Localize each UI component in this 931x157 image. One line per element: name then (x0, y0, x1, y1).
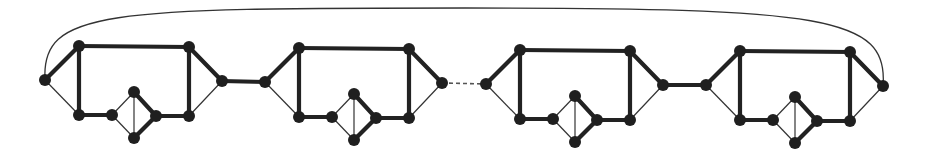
thin-edge (486, 84, 520, 119)
graph-node-gadget-1-small-left (106, 109, 118, 121)
thick-edge (740, 51, 850, 52)
graph-node-gadget-1-bottom-left (73, 109, 85, 121)
thick-edge (189, 47, 222, 81)
graph-node-gadget-2-right (436, 77, 448, 89)
graph-node-gadget-2-diamond-top (348, 88, 360, 100)
thin-edge (409, 83, 442, 118)
thick-edge (409, 49, 442, 83)
graph-node-gadget-4-diamond-top (789, 91, 801, 103)
graph-node-gadget-1-top-left (73, 40, 85, 52)
graph-node-gadget-4-bottom-left (734, 114, 746, 126)
graph-node-gadget-3-diamond-right (591, 114, 603, 126)
graph-node-gadget-1-left (39, 74, 51, 86)
thin-edge (45, 80, 79, 115)
dashed-connector-edge (442, 83, 486, 84)
graph-node-gadget-4-small-left (767, 114, 779, 126)
thick-edge (706, 51, 740, 85)
graph-node-gadget-1-top-right (183, 41, 195, 53)
graph-node-gadget-1-diamond-top (128, 86, 140, 98)
graph-node-gadget-3-top-left (514, 44, 526, 56)
graph-node-gadget-4-right (877, 80, 889, 92)
graph-node-gadget-3-bottom-right (624, 114, 636, 126)
thick-edge (79, 46, 189, 47)
thin-edge (706, 85, 740, 120)
thin-edge (850, 86, 883, 121)
graph-node-gadget-4-bottom-right (844, 115, 856, 127)
gadget-chain-diagram (0, 0, 931, 157)
graph-node-gadget-2-bottom-right (403, 112, 415, 124)
graph-node-gadget-4-top-right (844, 46, 856, 58)
thin-edge (265, 82, 299, 117)
thick-edge (850, 52, 883, 86)
nodes-layer (39, 40, 889, 149)
graph-node-gadget-3-left (480, 78, 492, 90)
thick-edge (630, 51, 663, 85)
thick-connector-edge (222, 81, 265, 82)
graph-node-gadget-1-diamond-bottom (128, 132, 140, 144)
graph-node-gadget-3-bottom-left (514, 113, 526, 125)
thick-edge (299, 48, 409, 49)
graph-node-gadget-2-diamond-bottom (348, 134, 360, 146)
thin-edge (630, 85, 663, 120)
thin-edge (189, 81, 222, 116)
graph-node-gadget-4-left (700, 79, 712, 91)
graph-node-gadget-3-diamond-top (569, 90, 581, 102)
graph-node-gadget-2-bottom-left (293, 111, 305, 123)
graph-node-gadget-3-right (657, 79, 669, 91)
graph-node-gadget-1-diamond-right (150, 110, 162, 122)
graph-node-gadget-3-top-right (624, 45, 636, 57)
graph-node-gadget-2-left (259, 76, 271, 88)
graph-node-gadget-4-diamond-bottom (789, 137, 801, 149)
thick-edge (520, 50, 630, 51)
graph-node-gadget-2-top-right (403, 43, 415, 55)
graph-node-gadget-4-top-left (734, 45, 746, 57)
graph-node-gadget-3-small-left (547, 113, 559, 125)
graph-node-gadget-1-bottom-right (183, 110, 195, 122)
graph-node-gadget-1-right (216, 75, 228, 87)
graph-node-gadget-2-diamond-right (370, 112, 382, 124)
thick-edge (486, 50, 520, 84)
graph-node-gadget-2-small-left (326, 111, 338, 123)
graph-node-gadget-4-diamond-right (811, 115, 823, 127)
thick-edge (265, 48, 299, 82)
edges-layer (45, 8, 884, 143)
graph-node-gadget-2-top-left (293, 42, 305, 54)
graph-node-gadget-3-diamond-bottom (569, 136, 581, 148)
